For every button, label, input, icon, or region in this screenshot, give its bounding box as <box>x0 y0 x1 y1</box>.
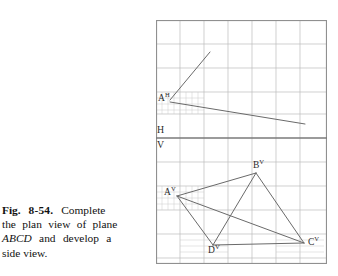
caption-text-1: Complete <box>61 204 105 216</box>
drawing-panel: AH H V AV BV CV DV <box>156 20 327 264</box>
grid-lines <box>156 20 327 264</box>
label-b-front-sup: V <box>259 158 264 165</box>
label-a-front-sup: V <box>171 185 176 192</box>
label-c-front-sup: V <box>314 235 319 242</box>
grid-border <box>157 21 327 264</box>
label-a-top-letter: A <box>158 93 165 103</box>
label-a-top-sup: H <box>165 91 170 98</box>
label-c-front-view: CV <box>308 238 319 248</box>
figure-label: Fig. 8-54. <box>2 204 53 216</box>
figure-caption: Fig. 8-54. Complete the plan view of pla… <box>2 203 150 260</box>
label-a-front-letter: A <box>164 187 171 197</box>
caption-line-4: side view. <box>2 246 150 260</box>
caption-line-2: the plan view of plane <box>2 217 150 231</box>
label-d-front-view: DV <box>208 246 220 256</box>
caption-line-1: Fig. 8-54. Complete <box>2 203 150 217</box>
grid-background <box>156 20 327 264</box>
label-d-front-letter: D <box>208 245 215 255</box>
plane-name: ABCD <box>2 232 32 244</box>
caption-line-3: ABCD and develop a <box>2 231 150 245</box>
fold-label-v: V <box>157 140 164 150</box>
fold-label-h: H <box>157 125 164 135</box>
label-b-front-view: BV <box>253 161 264 171</box>
label-a-front-view: AV <box>164 188 176 198</box>
caption-text-3: and develop a <box>39 232 111 244</box>
figure-number: 8-54. <box>29 204 54 216</box>
figure-label-word: Fig. <box>2 204 21 216</box>
label-d-front-sup: V <box>215 243 220 250</box>
label-a-top-view: AH <box>158 94 170 104</box>
